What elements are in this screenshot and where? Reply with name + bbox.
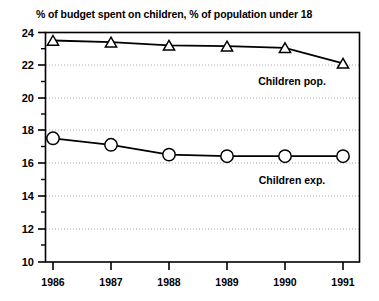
series-children-exp-line — [53, 138, 343, 156]
annotation-children-pop: Children pop. — [258, 75, 326, 87]
ytick-label-16: 16 — [22, 157, 34, 169]
ytick-label-22: 22 — [22, 59, 34, 71]
xtick-label-1986: 1986 — [41, 276, 65, 288]
xtick-label-1991: 1991 — [331, 276, 355, 288]
ytick-label-20: 20 — [22, 92, 34, 104]
marker-children-exp-1989 — [221, 150, 233, 162]
marker-children-exp-1987 — [105, 139, 117, 151]
xtick-label-1987: 1987 — [99, 276, 123, 288]
ytick-label-10: 10 — [22, 256, 34, 268]
marker-children-exp-1990 — [279, 150, 291, 162]
series-children-pop — [47, 36, 348, 69]
series-children-exp — [47, 132, 349, 162]
xtick-label-1990: 1990 — [273, 276, 297, 288]
xtick-label-1988: 1988 — [157, 276, 181, 288]
chart-figure: % of budget spent on children, % of popu… — [0, 0, 379, 301]
ytick-label-18: 18 — [22, 124, 34, 136]
y-axis-labels: 24 22 20 18 16 14 12 10 — [22, 27, 35, 269]
plot-area: 24 22 20 18 16 14 12 10 1986 1987 1988 1… — [0, 0, 379, 301]
plot-frame — [46, 33, 360, 263]
annotation-children-exp: Children exp. — [259, 174, 326, 186]
series-children-pop-line — [53, 41, 343, 64]
x-axis-labels: 1986 1987 1988 1989 1990 1991 — [41, 276, 355, 288]
marker-children-exp-1988 — [163, 148, 175, 160]
marker-children-exp-1991 — [337, 150, 349, 162]
y-major-ticks — [38, 33, 46, 263]
marker-children-exp-1986 — [47, 132, 59, 144]
ytick-label-24: 24 — [22, 27, 35, 39]
gridlines — [46, 65, 359, 229]
ytick-label-12: 12 — [22, 223, 34, 235]
xtick-label-1989: 1989 — [215, 276, 239, 288]
x-ticks — [53, 262, 343, 270]
ytick-label-14: 14 — [22, 190, 35, 202]
